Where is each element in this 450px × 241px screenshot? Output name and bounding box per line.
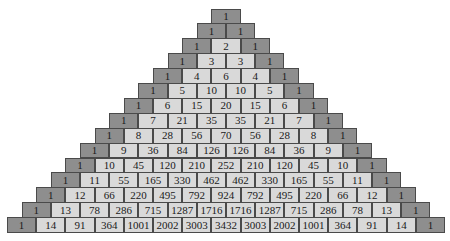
interior-cell: 91 bbox=[357, 217, 386, 233]
interior-cell: 1716 bbox=[226, 202, 255, 218]
interior-cell: 1716 bbox=[197, 202, 226, 218]
edge-cell: 1 bbox=[357, 158, 386, 174]
interior-cell: 364 bbox=[328, 217, 357, 233]
interior-cell: 286 bbox=[109, 202, 138, 218]
interior-cell: 10 bbox=[197, 83, 226, 99]
interior-cell: 330 bbox=[255, 172, 284, 188]
interior-cell: 28 bbox=[153, 128, 182, 144]
edge-cell: 1 bbox=[109, 113, 138, 129]
interior-cell: 252 bbox=[211, 158, 240, 174]
interior-cell: 6 bbox=[211, 68, 240, 84]
interior-cell: 462 bbox=[197, 172, 226, 188]
interior-cell: 35 bbox=[226, 113, 255, 129]
interior-cell: 13 bbox=[51, 202, 80, 218]
interior-cell: 715 bbox=[284, 202, 313, 218]
interior-cell: 15 bbox=[241, 98, 270, 114]
interior-cell: 3003 bbox=[241, 217, 270, 233]
edge-cell: 1 bbox=[36, 187, 65, 203]
interior-cell: 66 bbox=[328, 187, 357, 203]
interior-cell: 495 bbox=[270, 187, 299, 203]
interior-cell: 330 bbox=[168, 172, 197, 188]
interior-cell: 495 bbox=[153, 187, 182, 203]
interior-cell: 13 bbox=[372, 202, 401, 218]
edge-cell: 1 bbox=[299, 98, 328, 114]
interior-cell: 2002 bbox=[153, 217, 182, 233]
interior-cell: 78 bbox=[343, 202, 372, 218]
interior-cell: 1001 bbox=[124, 217, 153, 233]
interior-cell: 21 bbox=[255, 113, 284, 129]
interior-cell: 1287 bbox=[255, 202, 284, 218]
interior-cell: 11 bbox=[343, 172, 372, 188]
interior-cell: 91 bbox=[65, 217, 94, 233]
interior-cell: 4 bbox=[241, 68, 270, 84]
interior-cell: 792 bbox=[182, 187, 211, 203]
interior-cell: 924 bbox=[211, 187, 240, 203]
edge-cell: 1 bbox=[416, 217, 445, 233]
interior-cell: 6 bbox=[270, 98, 299, 114]
edge-cell: 1 bbox=[241, 38, 270, 54]
interior-cell: 715 bbox=[138, 202, 167, 218]
interior-cell: 126 bbox=[197, 143, 226, 159]
edge-cell: 1 bbox=[7, 217, 36, 233]
interior-cell: 5 bbox=[168, 83, 197, 99]
interior-cell: 21 bbox=[168, 113, 197, 129]
interior-cell: 45 bbox=[124, 158, 153, 174]
interior-cell: 9 bbox=[314, 143, 343, 159]
interior-cell: 364 bbox=[95, 217, 124, 233]
interior-cell: 78 bbox=[80, 202, 109, 218]
interior-cell: 7 bbox=[138, 113, 167, 129]
interior-cell: 7 bbox=[284, 113, 313, 129]
interior-cell: 10 bbox=[328, 158, 357, 174]
interior-cell: 45 bbox=[299, 158, 328, 174]
interior-cell: 3003 bbox=[182, 217, 211, 233]
interior-cell: 84 bbox=[255, 143, 284, 159]
interior-cell: 55 bbox=[314, 172, 343, 188]
interior-cell: 36 bbox=[284, 143, 313, 159]
edge-cell: 1 bbox=[372, 172, 401, 188]
edge-cell: 1 bbox=[255, 53, 284, 69]
interior-cell: 12 bbox=[65, 187, 94, 203]
interior-cell: 220 bbox=[124, 187, 153, 203]
interior-cell: 28 bbox=[270, 128, 299, 144]
interior-cell: 36 bbox=[138, 143, 167, 159]
edge-cell: 1 bbox=[80, 143, 109, 159]
edge-cell: 1 bbox=[226, 23, 255, 39]
pascals-triangle: 1111211331146411510105116152015611721353… bbox=[0, 0, 450, 241]
interior-cell: 120 bbox=[270, 158, 299, 174]
interior-cell: 220 bbox=[299, 187, 328, 203]
interior-cell: 14 bbox=[36, 217, 65, 233]
interior-cell: 11 bbox=[80, 172, 109, 188]
interior-cell: 120 bbox=[153, 158, 182, 174]
edge-cell: 1 bbox=[65, 158, 94, 174]
edge-cell: 1 bbox=[153, 68, 182, 84]
edge-cell: 1 bbox=[138, 83, 167, 99]
interior-cell: 8 bbox=[124, 128, 153, 144]
interior-cell: 56 bbox=[241, 128, 270, 144]
interior-cell: 2002 bbox=[270, 217, 299, 233]
interior-cell: 165 bbox=[284, 172, 313, 188]
interior-cell: 84 bbox=[168, 143, 197, 159]
interior-cell: 8 bbox=[299, 128, 328, 144]
interior-cell: 56 bbox=[182, 128, 211, 144]
interior-cell: 210 bbox=[182, 158, 211, 174]
edge-cell: 1 bbox=[343, 143, 372, 159]
edge-cell: 1 bbox=[95, 128, 124, 144]
interior-cell: 70 bbox=[211, 128, 240, 144]
interior-cell: 126 bbox=[226, 143, 255, 159]
interior-cell: 9 bbox=[109, 143, 138, 159]
interior-cell: 3432 bbox=[211, 217, 240, 233]
interior-cell: 12 bbox=[357, 187, 386, 203]
edge-cell: 1 bbox=[211, 9, 240, 25]
interior-cell: 792 bbox=[241, 187, 270, 203]
interior-cell: 3 bbox=[226, 53, 255, 69]
interior-cell: 5 bbox=[255, 83, 284, 99]
edge-cell: 1 bbox=[182, 38, 211, 54]
edge-cell: 1 bbox=[328, 128, 357, 144]
edge-cell: 1 bbox=[22, 202, 51, 218]
edge-cell: 1 bbox=[270, 68, 299, 84]
interior-cell: 35 bbox=[197, 113, 226, 129]
interior-cell: 1287 bbox=[168, 202, 197, 218]
interior-cell: 462 bbox=[226, 172, 255, 188]
interior-cell: 55 bbox=[109, 172, 138, 188]
interior-cell: 10 bbox=[95, 158, 124, 174]
